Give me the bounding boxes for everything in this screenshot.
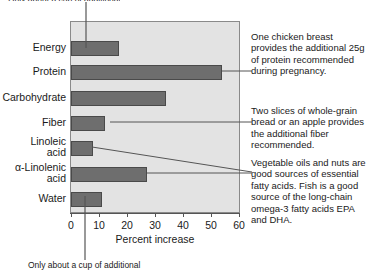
category-label-line: Carbohydrate bbox=[2, 92, 66, 103]
category-label-line: acid bbox=[15, 173, 66, 185]
bottom-clipped-caption: Only about a cup of additional bbox=[28, 260, 140, 270]
category-label-linoleic: Linoleicacid bbox=[30, 136, 66, 159]
category-label-water: Water bbox=[38, 193, 66, 204]
category-label-fiber: Fiber bbox=[42, 117, 66, 128]
x-axis-title: Percent increase bbox=[70, 233, 240, 245]
x-tick-60 bbox=[239, 213, 240, 217]
plot-area bbox=[70, 21, 240, 213]
bar--linolenic bbox=[71, 167, 147, 182]
category-axis-labels: EnergyProteinCarbohydrateFiberLinoleicac… bbox=[0, 21, 66, 213]
x-tick-label-40: 40 bbox=[177, 219, 189, 231]
top-clipped-caption: Only about a cup of additional bbox=[8, 0, 120, 1]
category-label-line: Water bbox=[38, 193, 66, 204]
annotation-fiber-note: Two slices of whole-grain bread or an ap… bbox=[251, 105, 369, 151]
bar-protein bbox=[71, 65, 222, 80]
bar-series bbox=[71, 22, 239, 212]
bar-energy bbox=[71, 41, 119, 56]
annotation-protein-note: One chicken breast provides the addition… bbox=[251, 31, 369, 77]
x-tick-10 bbox=[99, 213, 100, 217]
bar-water bbox=[71, 192, 102, 207]
annotation-fat-note: Vegetable oils and nuts are good sources… bbox=[251, 157, 369, 225]
bar-linoleic bbox=[71, 141, 93, 156]
x-tick-label-30: 30 bbox=[149, 219, 161, 231]
bar-carbohydrate bbox=[71, 91, 166, 106]
category-label--linolenic: α-Linolenicacid bbox=[15, 162, 66, 185]
x-tick-label-50: 50 bbox=[205, 219, 217, 231]
x-tick-label-60: 60 bbox=[233, 219, 245, 231]
x-tick-20 bbox=[127, 213, 128, 217]
category-label-protein: Protein bbox=[33, 66, 66, 77]
category-label-line: Energy bbox=[33, 42, 66, 53]
x-tick-50 bbox=[211, 213, 212, 217]
category-label-line: Protein bbox=[33, 66, 66, 77]
x-tick-label-0: 0 bbox=[68, 219, 74, 231]
category-label-line: Fiber bbox=[42, 117, 66, 128]
x-tick-0 bbox=[71, 213, 72, 217]
x-tick-30 bbox=[155, 213, 156, 217]
x-tick-label-10: 10 bbox=[93, 219, 105, 231]
bar-fiber bbox=[71, 116, 105, 131]
x-tick-label-20: 20 bbox=[121, 219, 133, 231]
x-tick-40 bbox=[183, 213, 184, 217]
category-label-energy: Energy bbox=[33, 42, 66, 53]
category-label-carbohydrate: Carbohydrate bbox=[2, 92, 66, 103]
category-label-line: acid bbox=[30, 147, 66, 159]
